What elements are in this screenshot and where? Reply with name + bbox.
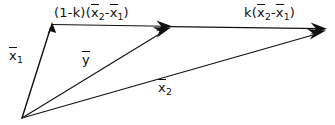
overbar <box>158 79 166 80</box>
label-prefix: (1-k)( <box>54 5 91 20</box>
overbar <box>9 47 17 48</box>
arrowhead-x2 <box>307 29 326 40</box>
label-k-term: k(x2-x1) <box>244 4 295 21</box>
arrowhead-x1 <box>48 22 57 34</box>
variable-base: y <box>82 51 90 66</box>
y-overbar-group: y <box>82 51 90 66</box>
segment-one-minus-k-line <box>52 25 166 27</box>
x2-overbar-group: x <box>158 79 166 94</box>
label-vector-x1: x1 <box>9 47 23 64</box>
vector-arrowheads <box>48 21 327 40</box>
label-vector-y: y <box>82 51 90 66</box>
variable-base: x <box>110 4 118 19</box>
overbar <box>82 51 90 52</box>
subscript-1: 1 <box>17 54 23 65</box>
overbar <box>257 4 265 5</box>
label-suffix: ) <box>124 5 129 20</box>
vector-lines <box>22 25 320 119</box>
x2-overbar-group: x <box>91 4 99 19</box>
overbar <box>91 4 99 5</box>
label-prefix: k( <box>244 5 257 20</box>
overbar <box>276 4 284 5</box>
variable-base: x <box>9 47 17 62</box>
x1-overbar-group: x <box>9 47 17 62</box>
label-suffix: ) <box>290 5 295 20</box>
x1-overbar-group: x <box>276 4 284 19</box>
segment-k-line <box>170 27 320 29</box>
label-vector-x2: x2 <box>158 79 172 96</box>
label-one-minus-k-term: (1-k)(x2-x1) <box>54 4 129 21</box>
x2-overbar-group: x <box>257 4 265 19</box>
subscript-2: 2 <box>166 86 172 97</box>
x1-overbar-group: x <box>110 4 118 19</box>
variable-base: x <box>257 4 265 19</box>
vector-y-line <box>22 30 166 118</box>
variable-base: x <box>158 79 166 94</box>
variable-base: x <box>91 4 99 19</box>
vector-x1-line <box>22 28 51 118</box>
overbar <box>110 4 118 5</box>
variable-base: x <box>276 4 284 19</box>
vector-x2-line <box>22 33 320 118</box>
vector-diagram: (1-k)(x2-x1) k(x2-x1) x1 y x2 <box>0 0 335 125</box>
